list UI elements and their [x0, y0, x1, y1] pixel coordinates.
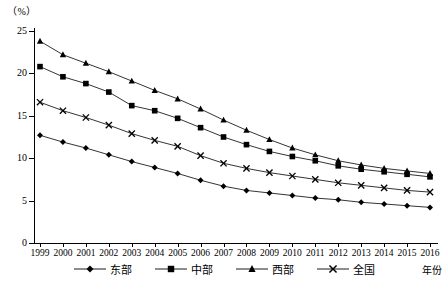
series-全国 — [37, 99, 433, 195]
data-point — [335, 163, 341, 169]
series-line — [40, 102, 430, 192]
data-point — [175, 143, 181, 149]
data-point — [129, 159, 135, 165]
data-point — [197, 106, 203, 112]
chart-legend: 东部中部西部全国 — [0, 261, 448, 277]
data-point — [221, 183, 227, 189]
data-point — [427, 204, 433, 210]
data-point — [243, 127, 249, 133]
series-中部 — [37, 64, 433, 180]
data-point — [266, 136, 272, 142]
data-point — [152, 108, 158, 114]
data-point — [152, 87, 158, 93]
data-point — [37, 99, 43, 105]
series-西部 — [37, 38, 433, 176]
data-point — [37, 132, 43, 138]
series-line — [40, 135, 430, 207]
data-point — [335, 197, 341, 203]
cross-legend-icon — [316, 263, 350, 275]
x-axis-title: 年份 — [422, 262, 442, 277]
data-point — [83, 145, 89, 151]
data-point — [290, 154, 296, 160]
data-point — [60, 51, 66, 57]
data-point — [267, 149, 273, 155]
data-point — [404, 203, 410, 209]
square-legend-icon — [154, 263, 188, 275]
data-point — [381, 201, 387, 207]
diamond-legend-icon — [73, 263, 107, 275]
data-point — [198, 177, 204, 183]
data-point — [243, 187, 249, 193]
data-point — [220, 117, 226, 123]
chart-container: （%） 0510152025 1999200020012002200320042… — [0, 0, 448, 283]
data-point — [37, 38, 43, 44]
legend-label: 东部 — [110, 261, 132, 277]
legend-item-中部[interactable]: 中部 — [154, 261, 213, 277]
data-point — [175, 116, 181, 122]
data-point — [220, 160, 226, 166]
series-东部 — [37, 132, 433, 210]
legend-label: 全国 — [353, 261, 375, 277]
legend-label: 西部 — [272, 261, 294, 277]
data-point — [106, 152, 112, 158]
data-point — [152, 165, 158, 171]
data-point — [106, 89, 112, 95]
data-point — [175, 170, 181, 176]
legend-item-西部[interactable]: 西部 — [235, 261, 294, 277]
data-point — [358, 199, 364, 205]
data-point — [60, 108, 66, 114]
data-point — [60, 74, 66, 80]
data-point — [60, 139, 66, 145]
data-point — [152, 137, 158, 143]
data-point — [312, 195, 318, 201]
data-point — [129, 103, 135, 109]
legend-item-东部[interactable]: 东部 — [73, 261, 132, 277]
data-point — [83, 81, 89, 87]
legend-label: 中部 — [191, 261, 213, 277]
data-point — [37, 64, 43, 70]
data-point — [289, 193, 295, 199]
chart-series-layer — [0, 0, 448, 283]
data-point — [129, 131, 135, 137]
data-point — [244, 142, 250, 148]
series-line — [40, 41, 430, 173]
data-point — [129, 78, 135, 84]
legend-item-全国[interactable]: 全国 — [316, 261, 375, 277]
data-point — [312, 158, 318, 164]
data-point — [106, 122, 112, 128]
data-point — [197, 153, 203, 159]
data-point — [198, 125, 204, 131]
data-point — [83, 114, 89, 120]
data-point — [266, 190, 272, 196]
triangle-legend-icon — [235, 263, 269, 275]
data-point — [221, 134, 227, 140]
